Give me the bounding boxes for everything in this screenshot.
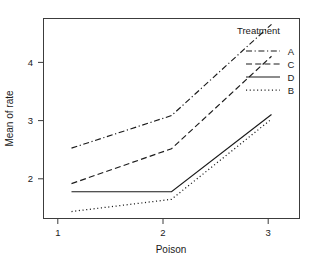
y-axis-title: Mean of rate	[4, 90, 15, 147]
x-tick-label-2: 2	[160, 227, 165, 238]
x-tick-label-3: 3	[266, 227, 271, 238]
y-tick-label-2: 2	[28, 173, 33, 184]
y-tick-label-3: 3	[28, 115, 33, 126]
figure-background	[0, 0, 322, 260]
legend-label-c: C	[288, 59, 295, 70]
interaction-plot-figure: 4 3 2 1 2 3 Poison Mean of rate Treatmen…	[0, 0, 322, 260]
x-axis-title: Poison	[156, 244, 187, 255]
x-tick-label-1: 1	[55, 227, 60, 238]
y-tick-label-4: 4	[28, 57, 33, 68]
legend-label-b: B	[288, 85, 294, 96]
legend-label-a: A	[288, 46, 295, 57]
legend-label-d: D	[288, 72, 295, 83]
chart-canvas: 4 3 2 1 2 3 Poison Mean of rate Treatmen…	[0, 0, 322, 260]
legend-title: Treatment	[237, 25, 280, 36]
